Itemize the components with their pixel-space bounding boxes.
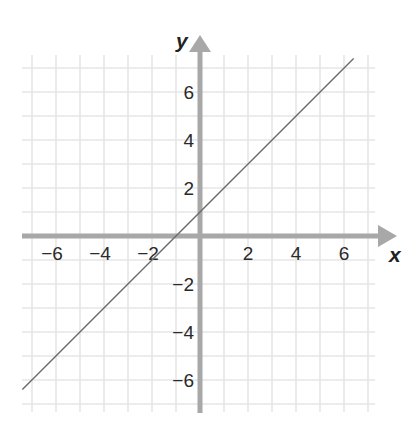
x-tick-label: 6 (339, 243, 350, 264)
y-tick-label: 4 (183, 130, 194, 151)
x-tick-label: 2 (243, 243, 254, 264)
x-tick-label: 4 (291, 243, 302, 264)
x-tick-label: −2 (137, 243, 159, 264)
x-tick-label: −6 (41, 243, 63, 264)
y-tick-label: −4 (172, 322, 194, 343)
y-tick-label: −6 (172, 370, 194, 391)
x-axis-label: x (388, 243, 402, 266)
y-tick-label: 2 (183, 178, 194, 199)
y-tick-label: 6 (183, 82, 194, 103)
y-axis-label: y (175, 29, 189, 52)
y-axis-arrow-icon (189, 35, 211, 52)
y-tick-label: −2 (172, 274, 194, 295)
coordinate-plane: −6−4−2246642−2−4−6xy (0, 0, 419, 424)
x-tick-label: −4 (89, 243, 111, 264)
